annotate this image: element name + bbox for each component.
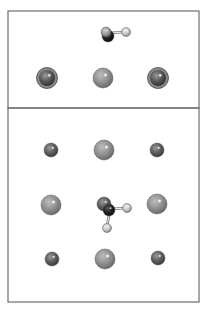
panel-frame <box>8 11 199 108</box>
medium-atom <box>94 140 114 160</box>
small-atom <box>150 143 164 157</box>
top-view-panel <box>8 108 199 302</box>
small-atom <box>44 143 58 157</box>
adsorbed-molecule <box>97 197 132 233</box>
light-atom <box>103 224 112 233</box>
dark-atom <box>103 204 115 216</box>
small-atom <box>45 252 59 266</box>
small-atom <box>151 251 165 265</box>
medium-atom <box>147 194 167 214</box>
medium-atom <box>93 68 113 88</box>
large-atom <box>37 68 58 89</box>
medium-atom <box>41 195 61 215</box>
light-atom <box>122 28 131 37</box>
light-atom <box>123 204 132 213</box>
large-atom <box>148 68 169 89</box>
light-grey-atom <box>101 27 111 37</box>
crystal-structure-diagram <box>0 0 208 310</box>
adsorbed-molecule <box>101 27 131 42</box>
side-view-panel <box>8 11 199 108</box>
medium-atom <box>95 249 115 269</box>
